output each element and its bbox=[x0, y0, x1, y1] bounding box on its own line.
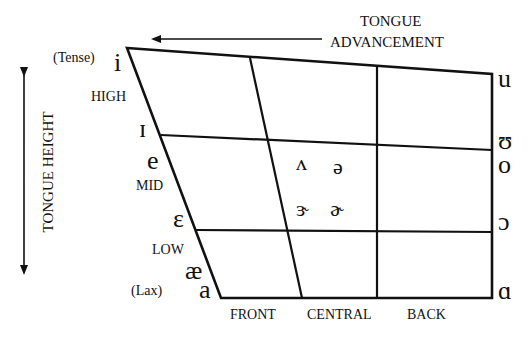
front-label: FRONT bbox=[230, 308, 276, 322]
high-mid-divider bbox=[161, 135, 492, 150]
vowel-wedge: ʌ bbox=[296, 152, 307, 174]
tongue-advancement-label-line1: TONGUE bbox=[360, 14, 421, 29]
vowel-a: a bbox=[199, 277, 211, 303]
mid-label: MID bbox=[136, 179, 163, 193]
tongue-advancement-label-line2: ADVANCEMENT bbox=[330, 35, 444, 50]
lax-label: (Lax) bbox=[131, 284, 162, 298]
mid-low-divider bbox=[196, 230, 492, 232]
vowel-quadrilateral-diagram: TONGUE ADVANCEMENT TONGUE HEIGHT (Tense)… bbox=[0, 0, 528, 340]
vowel-r-colored-reversed-epsilon: ɝ bbox=[296, 198, 309, 220]
tongue-height-label: TONGUE HEIGHT bbox=[40, 113, 57, 233]
vowel-open-o: ɔ bbox=[498, 209, 510, 235]
quadrilateral-outline bbox=[127, 48, 492, 298]
vowel-small-cap-i: ɪ bbox=[139, 116, 146, 142]
vowel-e: e bbox=[147, 148, 159, 174]
tense-label: (Tense) bbox=[53, 51, 95, 65]
vowel-u: u bbox=[498, 66, 511, 92]
front-central-divider bbox=[250, 58, 302, 298]
vowel-script-a: ɑ bbox=[498, 278, 512, 304]
vowel-schwa: ə bbox=[333, 156, 343, 178]
low-label: LOW bbox=[152, 243, 184, 257]
central-label: CENTRAL bbox=[307, 308, 372, 322]
vowel-o: o bbox=[498, 152, 511, 178]
vowel-epsilon: ɛ bbox=[173, 206, 184, 232]
high-label: HIGH bbox=[91, 90, 126, 104]
vowel-i: i bbox=[114, 50, 121, 76]
vowel-r-colored-schwa: ɚ bbox=[330, 198, 344, 220]
back-label: BACK bbox=[407, 308, 446, 322]
